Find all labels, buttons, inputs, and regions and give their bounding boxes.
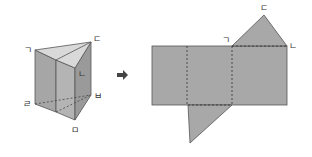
label-mieum: ㅁ (71, 125, 79, 135)
diagram-canvas: ㄱ ㄴ ㄷ ㄹ ㅁ ㅂ ㄱ ㄴ ㄷ (0, 0, 312, 157)
label-nieun: ㄴ (78, 69, 86, 79)
label-giyeok: ㄱ (24, 45, 32, 55)
prism-left-face (35, 50, 56, 112)
label-bieup: ㅂ (94, 91, 102, 101)
prism-front-face (56, 60, 75, 120)
net-label-nieun: ㄴ (289, 41, 297, 51)
triangular-prism: ㄱ ㄴ ㄷ ㄹ ㅁ ㅂ (23, 34, 102, 135)
net-label-giyeok: ㄱ (222, 35, 230, 45)
prism-net: ㄱ ㄴ ㄷ (152, 3, 297, 143)
net-label-digeut: ㄷ (260, 3, 268, 13)
label-digeut: ㄷ (93, 34, 101, 44)
label-rieul: ㄹ (23, 99, 31, 109)
net-top-triangle (232, 15, 287, 46)
net-bottom-triangle (188, 105, 232, 143)
right-arrow-icon (117, 70, 128, 80)
prism-net-diagram: ㄱ ㄴ ㄷ ㄹ ㅁ ㅂ ㄱ ㄴ ㄷ (0, 0, 312, 157)
net-lateral-faces (152, 46, 287, 105)
